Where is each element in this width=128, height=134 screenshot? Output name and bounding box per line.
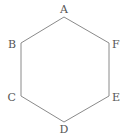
hexagon-outline <box>21 17 109 122</box>
hexagon-diagram: A B C D E F <box>0 0 128 134</box>
vertex-label-f: F <box>112 38 120 51</box>
hexagon-svg: A B C D E F <box>0 0 128 134</box>
vertex-label-a: A <box>59 3 69 16</box>
vertex-label-e: E <box>112 91 120 104</box>
vertex-label-d: D <box>60 123 69 134</box>
vertex-label-b: B <box>8 38 16 51</box>
vertex-label-c: C <box>8 91 16 104</box>
